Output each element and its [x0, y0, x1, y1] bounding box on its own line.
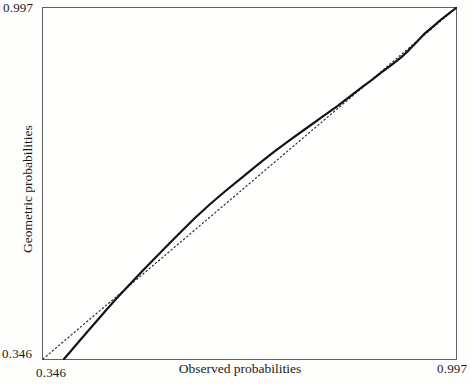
y-axis-max-tick-label: 0.997: [3, 1, 33, 15]
pp-curve: [64, 8, 456, 359]
reference-diagonal-line: [43, 8, 456, 359]
plot-area: [42, 7, 457, 360]
x-axis-max-tick-label: 0.997: [437, 362, 467, 376]
pp-plot-figure: 0.997 Geometric probabilities 0.346 0.34…: [0, 0, 470, 385]
plot-svg: [43, 8, 456, 359]
x-axis-title: Observed probabilities: [90, 361, 390, 376]
y-axis-title: Geometric probabilities: [20, 104, 36, 274]
y-axis-min-tick-label: 0.346: [2, 347, 32, 361]
x-axis-min-tick-label: 0.346: [36, 366, 66, 380]
